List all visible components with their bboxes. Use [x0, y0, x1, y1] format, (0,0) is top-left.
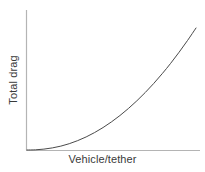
plot-area	[0, 0, 205, 172]
data-series-group	[27, 28, 196, 150]
y-axis-label-container: Total drag	[0, 10, 26, 150]
y-axis-label: Total drag	[7, 55, 19, 104]
chart-container: Total drag Vehicle/tether	[0, 0, 205, 172]
axes-group	[26, 10, 200, 151]
drag-curve	[27, 28, 196, 150]
x-axis-label: Vehicle/tether	[0, 153, 205, 165]
